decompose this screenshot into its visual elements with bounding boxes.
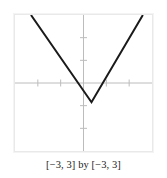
function-curve	[31, 15, 143, 102]
graph-figure: [−3, 3] by [−3, 3]	[0, 0, 167, 178]
viewing-window-caption: [−3, 3] by [−3, 3]	[0, 158, 167, 171]
plot-frame	[14, 14, 153, 152]
plot-canvas	[15, 15, 152, 151]
